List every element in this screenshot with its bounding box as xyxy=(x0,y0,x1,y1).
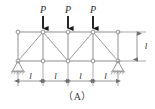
figure-caption: （A） xyxy=(0,88,155,103)
vertical-dimension-label: l xyxy=(145,41,148,51)
joint-node xyxy=(16,30,20,34)
vertical-members xyxy=(18,32,118,61)
truss-figure: P P P l l l xyxy=(0,0,155,109)
dimension-label-3: l xyxy=(79,71,82,81)
dimension-label-4: l xyxy=(104,71,107,81)
joint-node xyxy=(66,59,70,63)
joint-node xyxy=(66,30,70,34)
joint-node xyxy=(41,59,45,63)
diagonal-member-2 xyxy=(43,32,68,61)
load-label-3: P xyxy=(89,4,96,15)
load-label-1: P xyxy=(39,4,46,15)
joint-node xyxy=(41,30,45,34)
joint-node xyxy=(91,59,95,63)
horizontal-dimensions: l l l l xyxy=(18,63,118,86)
diagonal-member-4 xyxy=(93,32,118,61)
diagonal-member-1 xyxy=(18,32,43,61)
vertical-dimension: l xyxy=(118,32,148,61)
diagonal-member-3 xyxy=(68,32,93,61)
dimension-label-2: l xyxy=(54,71,57,81)
dimension-extension-lines xyxy=(18,63,118,86)
load-label-2: P xyxy=(64,4,71,15)
dimension-label-1: l xyxy=(29,71,32,81)
load-arrows xyxy=(43,16,93,29)
joint-node xyxy=(91,30,95,34)
